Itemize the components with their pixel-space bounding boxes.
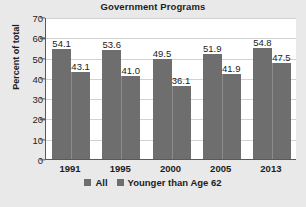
bar-value-label: 54.8 [242, 37, 282, 48]
y-tick-label: 70 [9, 13, 43, 24]
plot-area: 54.143.153.641.049.536.151.941.954.847.5 [45, 18, 296, 160]
y-tick-label: 10 [9, 134, 43, 145]
bar [253, 48, 272, 159]
bar [172, 86, 191, 159]
bar [222, 74, 241, 159]
bar-value-label: 54.1 [42, 38, 82, 49]
y-tick-label: 0 [9, 155, 43, 166]
bar-value-label: 36.1 [161, 75, 201, 86]
legend-swatch [117, 179, 124, 186]
x-tick-label: 2013 [241, 163, 301, 174]
y-tick-label: 50 [9, 53, 43, 64]
y-tick-label: 20 [9, 114, 43, 125]
bar [71, 72, 90, 159]
legend-swatch [84, 179, 91, 186]
bar [153, 59, 172, 159]
legend-label: Younger than Age 62 [128, 177, 222, 188]
gridline [46, 18, 296, 19]
y-tick-label: 40 [9, 73, 43, 84]
legend-entry: All [84, 177, 107, 188]
y-tick-label: 30 [9, 94, 43, 105]
legend-entry: Younger than Age 62 [117, 177, 222, 188]
bar-value-label: 53.6 [92, 39, 132, 50]
bar [272, 63, 291, 159]
bar-value-label: 51.9 [192, 43, 232, 54]
chart-figure: Government Programs Percent of total 010… [0, 0, 306, 207]
bar-value-label: 41.0 [111, 65, 151, 76]
bar [121, 76, 140, 159]
footnote-text [4, 198, 302, 207]
bar-value-label: 49.5 [142, 48, 182, 59]
bar-value-label: 43.1 [61, 61, 101, 72]
legend-label: All [95, 177, 107, 188]
bar-value-label: 41.9 [211, 63, 251, 74]
chart-title: Government Programs [0, 1, 306, 12]
chart-legend: AllYounger than Age 62 [0, 177, 306, 188]
bar-value-label: 47.5 [261, 52, 301, 63]
y-tick-label: 60 [9, 33, 43, 44]
